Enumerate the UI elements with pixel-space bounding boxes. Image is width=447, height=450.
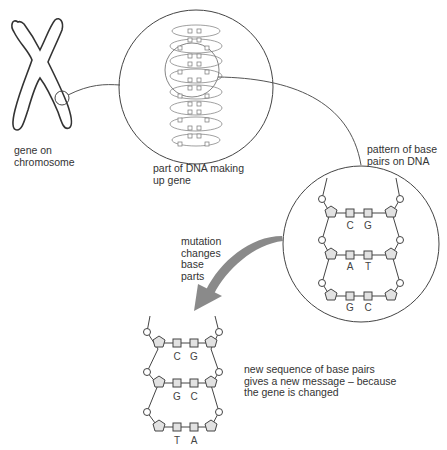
part-of-dna-label: part of DNA making up gene bbox=[153, 163, 244, 186]
original-dna-ladder bbox=[319, 178, 404, 300]
mutated-dna-ladder bbox=[144, 316, 223, 431]
base-letter: T bbox=[365, 261, 371, 272]
base-pair-circle bbox=[283, 166, 439, 322]
new-sequence-label: new sequence of base pairs gives a new m… bbox=[244, 364, 396, 399]
base-letter: A bbox=[347, 261, 354, 272]
base-letter: G bbox=[364, 220, 372, 231]
pattern-of-base-pairs-label: pattern of base pairs on DNA bbox=[367, 144, 437, 167]
base-letter: G bbox=[173, 391, 181, 402]
base-letter: G bbox=[346, 302, 354, 313]
base-letter: T bbox=[174, 435, 180, 446]
connector-line-1 bbox=[68, 85, 120, 95]
base-letter: C bbox=[190, 391, 197, 402]
base-letter: A bbox=[191, 435, 198, 446]
base-letter: C bbox=[173, 351, 180, 362]
connector-line-2 bbox=[218, 77, 361, 165]
base-letter: C bbox=[364, 302, 371, 313]
dna-helix-circle bbox=[119, 10, 273, 164]
base-letter: C bbox=[346, 220, 353, 231]
chromosome-icon bbox=[12, 19, 72, 130]
gene-on-chromosome-label: gene on chromosome bbox=[14, 145, 75, 168]
base-letter: G bbox=[190, 351, 198, 362]
mutation-label: mutation changes base parts bbox=[181, 236, 221, 282]
